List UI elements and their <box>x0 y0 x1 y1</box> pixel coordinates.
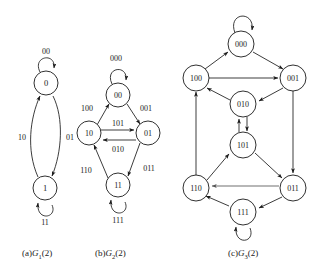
edge-c-111-110 <box>206 196 229 206</box>
node-c-010-label: 010 <box>237 100 249 109</box>
edge-c-010-100 <box>207 88 230 100</box>
node-c-111-label: 111 <box>237 208 248 217</box>
node-c-101-label: 101 <box>237 141 249 150</box>
edge-c-110-101 <box>207 154 229 180</box>
edge-c-000-001 <box>253 52 283 69</box>
caption-a-prefix: (a) <box>22 248 32 258</box>
caption-c-suffix: (2) <box>248 248 259 258</box>
caption-panel-c: (c)G3(2) <box>228 248 258 260</box>
node-c-011-label: 011 <box>287 184 299 193</box>
edge-c-011-111 <box>259 197 282 208</box>
de-bruijn-graph-figure: 0 1 00 11 10 01 00 10 01 11 000 111 00 <box>0 0 315 268</box>
caption-c-prefix: (c) <box>228 248 238 258</box>
caption-panel-b: (b)G2(2) <box>95 248 126 260</box>
node-c-000-label: 000 <box>235 40 247 49</box>
edge-c-111-selfloop <box>236 227 251 240</box>
edge-c-101-011 <box>255 153 282 178</box>
caption-b-suffix: (2) <box>115 248 126 258</box>
caption-panel-a: (a)G1(2) <box>22 248 52 260</box>
caption-a-suffix: (2) <box>42 248 53 258</box>
edge-c-000-selfloop <box>234 16 253 33</box>
edge-c-100-000 <box>205 52 228 69</box>
edge-c-001-010 <box>259 88 283 101</box>
caption-b-prefix: (b) <box>95 248 106 258</box>
graph-c-g3: 000 100 001 010 101 110 011 111 <box>0 0 315 268</box>
node-c-001-label: 001 <box>287 74 299 83</box>
node-c-110-label: 110 <box>190 184 202 193</box>
node-c-100-label: 100 <box>190 74 202 83</box>
